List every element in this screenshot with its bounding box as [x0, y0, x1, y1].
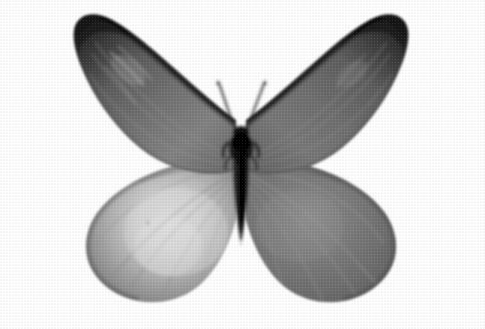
halftone-texture-overlay — [0, 0, 485, 329]
butterfly-photograph: Black and white halftone photograph of a… — [0, 0, 485, 329]
butterfly-illustration — [0, 0, 485, 329]
